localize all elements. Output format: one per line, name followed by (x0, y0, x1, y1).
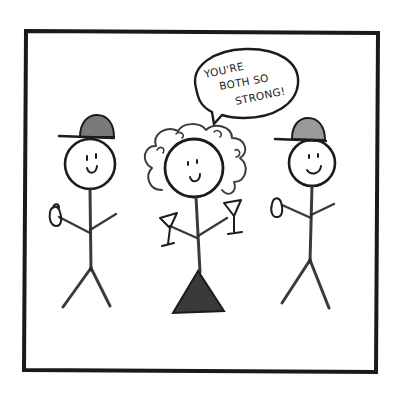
comic-panel: YOU'RE BOTH SO STRONG! (0, 0, 402, 399)
panel-border (24, 31, 378, 372)
